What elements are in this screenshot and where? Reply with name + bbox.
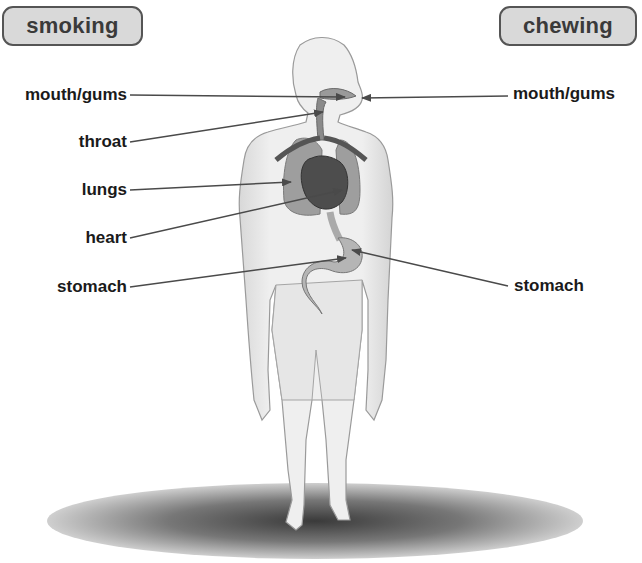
- leader-mouth-right: [362, 96, 508, 98]
- label-mouth-gums-chewing: mouth/gums: [513, 84, 615, 104]
- label-stomach-smoking: stomach: [57, 277, 127, 297]
- label-throat: throat: [79, 132, 127, 152]
- ground-shadow: [47, 483, 583, 559]
- label-lungs: lungs: [82, 180, 127, 200]
- label-heart: heart: [85, 228, 127, 248]
- label-mouth-gums-smoking: mouth/gums: [25, 85, 127, 105]
- label-stomach-chewing: stomach: [514, 276, 584, 296]
